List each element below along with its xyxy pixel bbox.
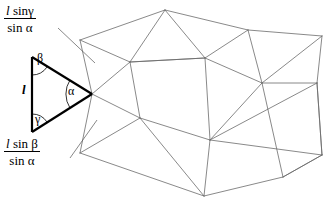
mesh-edge (130, 10, 165, 62)
mesh-edge (80, 10, 165, 40)
mesh-edge (80, 94, 92, 153)
fraction-bottom-numerator-l: l (6, 136, 10, 151)
angle-label-beta: β (37, 52, 43, 64)
mesh-edge (80, 40, 92, 94)
label-bottom-fraction: l sin β sin α (4, 137, 40, 168)
mesh-edge (317, 83, 322, 155)
fraction-bottom-denominator-angle: α (28, 153, 35, 168)
fraction-bottom-numerator-fn: sin (13, 136, 28, 151)
mesh-edge (204, 140, 210, 196)
highlighted-triangle (32, 57, 92, 132)
mesh-edge (80, 153, 204, 196)
fraction-top-numerator-angle: γ (28, 3, 34, 18)
mesh-edge (80, 40, 130, 62)
mesh-edge (205, 30, 248, 58)
fraction-bottom-denominator-fn: sin (9, 153, 24, 168)
side-label-l: l (22, 83, 26, 96)
figure-container: l sinγ sin α l sin β sin α α β γ l (0, 0, 327, 200)
mesh-edge (205, 58, 210, 140)
mesh-edge (140, 118, 210, 140)
mesh-edge (210, 83, 262, 140)
fraction-bottom-numerator: l sin β (4, 137, 40, 151)
mesh-edge (205, 58, 262, 83)
mesh-edge (80, 118, 140, 153)
fraction-top-numerator-fn: sin (13, 3, 28, 18)
mesh-edge (130, 62, 140, 118)
mesh-edge (130, 58, 205, 62)
mesh-edge (210, 140, 322, 155)
angle-label-gamma: γ (35, 113, 40, 125)
mesh-edge (92, 62, 130, 94)
label-top-fraction: l sinγ sin α (4, 4, 36, 35)
fraction-bottom: l sin β sin α (4, 137, 40, 167)
leader-line-bottom (70, 120, 97, 158)
mesh-edge (317, 36, 322, 83)
mesh-edge (165, 10, 205, 58)
mesh-edge (262, 36, 322, 83)
fraction-bottom-numerator-angle: β (31, 136, 38, 151)
mesh-edge (165, 10, 248, 30)
fraction-top: l sinγ sin α (4, 4, 36, 34)
fraction-bottom-denominator: sin α (4, 152, 40, 167)
mesh-edge (140, 118, 204, 196)
leader-line-top (58, 28, 95, 63)
angle-arc-beta (32, 67, 47, 75)
angle-label-alpha: α (68, 85, 74, 97)
mesh-edge (248, 30, 322, 36)
mesh-edge (262, 83, 283, 177)
fraction-top-numerator: l sinγ (4, 4, 36, 18)
mesh-edge (248, 30, 262, 83)
fraction-top-denominator: sin α (4, 19, 36, 34)
fraction-top-denominator-angle: α (26, 20, 33, 35)
triangle-edge-lower (32, 94, 92, 132)
fraction-top-numerator-l: l (6, 3, 10, 18)
mesh-edge (283, 155, 322, 177)
mesh-diagram-svg (0, 0, 327, 200)
mesh-edges (80, 10, 322, 196)
mesh-edge (92, 94, 140, 118)
mesh-edge (204, 177, 283, 196)
mesh-edge (210, 83, 317, 140)
fraction-top-denominator-fn: sin (7, 20, 22, 35)
